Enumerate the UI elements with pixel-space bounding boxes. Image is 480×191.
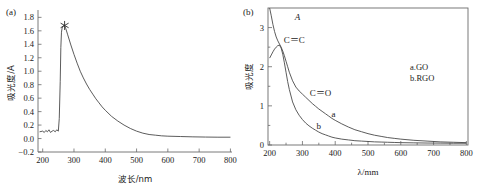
panel-b-annotation: A	[294, 12, 301, 22]
panel-b-x-tick: 300	[296, 148, 309, 158]
panel-b-curve-go	[270, 8, 467, 143]
panel-b-annotation: C＝C	[284, 35, 305, 45]
panel-a-absorbance-curve	[40, 25, 231, 137]
panel-b-x-tick: 500	[362, 148, 375, 158]
panel-a-y-tick: 1.2	[23, 53, 34, 63]
panel-b-y-tick: 3	[260, 23, 264, 33]
panel-b-y-tick: 2	[260, 62, 264, 72]
panel-a-y-tick: 0.2	[23, 120, 34, 130]
panel-b-curve-rgo	[270, 45, 467, 143]
panel-b-x-tick: 200	[263, 148, 276, 158]
panel-b: (b) 0123 200300400500600700800 AC＝CC＝Oab…	[240, 0, 480, 191]
legend-item-rgo: b.RGO	[410, 73, 434, 83]
panel-b-x-tick: 800	[460, 148, 473, 158]
panel-b-axes	[268, 8, 468, 145]
panel-a-y-tick: 1.8	[23, 12, 34, 22]
panel-b-annotations: AC＝CC＝Oab	[284, 12, 336, 131]
panel-b-x-tick: 400	[329, 148, 342, 158]
panel-a: (a) 1.81.61.41.21.00.80.60.40.20.0−0.2 2…	[0, 0, 240, 191]
panel-b-annotation: b	[317, 121, 322, 131]
panel-a-y-tick: −0.2	[19, 147, 34, 157]
panel-a-x-tick-labels: 200300400500600700800	[36, 155, 236, 165]
panel-a-y-axis-title: 吸光度/A	[6, 65, 16, 101]
panel-a-y-tick: 0.0	[23, 134, 34, 144]
panel-b-plot: (b) 0123 200300400500600700800 AC＝CC＝Oab…	[240, 0, 480, 191]
panel-b-tag: (b)	[243, 7, 254, 17]
panel-a-y-tick: 0.4	[23, 107, 34, 117]
panel-b-annotation: C＝O	[310, 88, 332, 98]
panel-a-x-axis-title: 波长/nm	[118, 174, 153, 184]
panel-b-y-axis-title: 吸光度	[244, 63, 254, 90]
panel-b-x-tick-labels: 200300400500600700800	[263, 148, 472, 158]
panel-b-y-tick: 1	[260, 101, 264, 111]
panel-a-x-tick: 600	[161, 155, 174, 165]
legend-item-go: a.GO	[410, 62, 428, 72]
panel-a-tag: (a)	[6, 7, 16, 17]
panel-a-x-tick: 700	[193, 155, 206, 165]
panel-a-x-tick: 400	[99, 155, 112, 165]
panel-a-y-tick: 1.6	[23, 26, 34, 36]
panel-b-annotation: a	[332, 109, 336, 119]
figure-container: (a) 1.81.61.41.21.00.80.60.40.20.0−0.2 2…	[0, 0, 480, 191]
panel-a-y-tick: 1.4	[23, 39, 34, 49]
panel-b-x-axis-title: λ/mm	[358, 167, 379, 177]
panel-a-x-tick: 300	[68, 155, 81, 165]
panel-b-x-tick: 700	[427, 148, 440, 158]
panel-a-y-tick: 0.6	[23, 93, 34, 103]
panel-a-x-tick: 500	[130, 155, 143, 165]
panel-a-y-tick: 0.8	[23, 80, 34, 90]
panel-a-plot: (a) 1.81.61.41.21.00.80.60.40.20.0−0.2 2…	[0, 0, 240, 191]
panel-b-x-tick: 600	[394, 148, 407, 158]
panel-a-x-tick: 200	[36, 155, 49, 165]
panel-b-y-tick-labels: 0123	[260, 23, 264, 150]
panel-a-x-tick: 800	[224, 155, 237, 165]
panel-a-y-tick: 1.0	[23, 66, 34, 76]
panel-a-y-tick-labels: 1.81.61.41.21.00.80.60.40.20.0−0.2	[19, 12, 35, 157]
